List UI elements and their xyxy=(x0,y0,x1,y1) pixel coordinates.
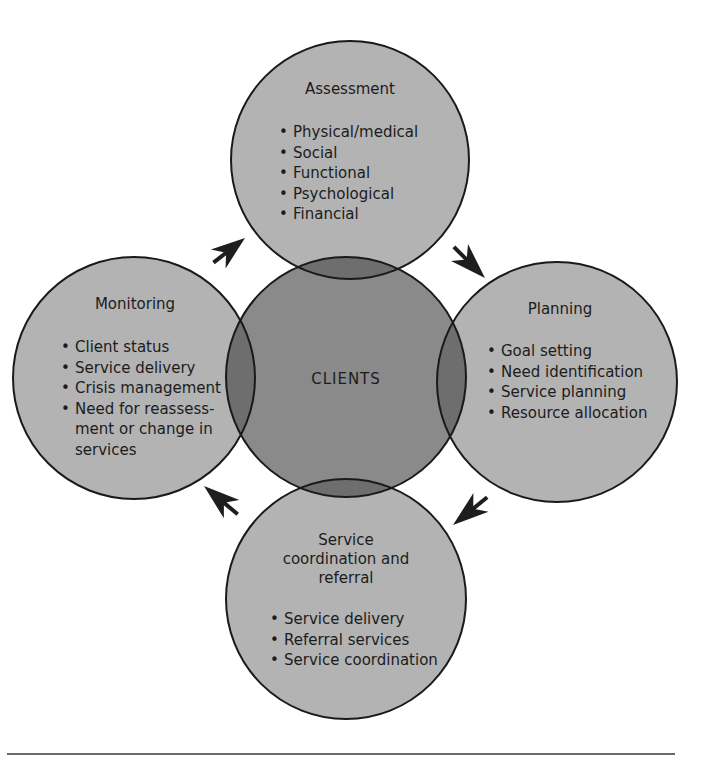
monitoring-list: Client status Service delivery Crisis ma… xyxy=(61,337,221,460)
planning-title: Planning xyxy=(500,300,620,319)
bottom-divider xyxy=(7,753,675,755)
list-item: Social xyxy=(279,143,418,164)
list-item: Service delivery xyxy=(61,358,221,379)
list-item: Service planning xyxy=(487,382,647,403)
list-item: Functional xyxy=(279,163,418,184)
service-title: Service coordination and referral xyxy=(266,531,426,588)
assessment-list: Physical/medical Social Functional Psych… xyxy=(279,122,418,225)
list-item: Crisis management xyxy=(61,378,221,399)
list-item: Resource allocation xyxy=(487,403,647,424)
list-item: Goal setting xyxy=(487,341,647,362)
list-item: Psychological xyxy=(279,184,418,205)
service-list: Service delivery Referral services Servi… xyxy=(270,609,438,671)
service-circle xyxy=(226,479,466,719)
service-title-line: Service xyxy=(266,531,426,550)
planning-list: Goal setting Need identification Service… xyxy=(487,341,647,423)
arrow-assessment-to-planning-icon xyxy=(445,238,493,286)
list-item: Financial xyxy=(279,204,418,225)
list-item: Service coordination xyxy=(270,650,438,671)
list-continuation: ment or change in xyxy=(61,419,221,440)
service-title-line: referral xyxy=(266,569,426,588)
list-item: Need for reassess- xyxy=(61,399,221,420)
service-title-line: coordination and xyxy=(266,550,426,569)
arrow-service-to-monitoring-icon xyxy=(196,477,245,524)
monitoring-title: Monitoring xyxy=(75,295,195,314)
list-item: Client status xyxy=(61,337,221,358)
list-item: Referral services xyxy=(270,630,438,651)
arrow-monitoring-to-assessment-icon xyxy=(206,229,252,273)
list-item: Need identification xyxy=(487,362,647,383)
clients-label: CLIENTS xyxy=(286,370,406,388)
list-item: Service delivery xyxy=(270,609,438,630)
list-continuation: services xyxy=(61,440,221,461)
list-item: Physical/medical xyxy=(279,122,418,143)
assessment-title: Assessment xyxy=(290,80,410,99)
arrow-planning-to-service-icon xyxy=(445,488,494,534)
